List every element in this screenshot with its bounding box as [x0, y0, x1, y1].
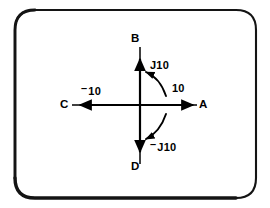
minus-sign-icon: –	[150, 139, 156, 150]
axis-endpoint-label-a: A	[199, 99, 208, 111]
axis-value-label-negative-10: –10	[81, 83, 101, 97]
axis-endpoint-label-d: D	[131, 161, 140, 173]
axis-value-label-positive-j10: J10	[150, 60, 169, 71]
axis-value-label-negative-10-text: 10	[88, 85, 101, 97]
axis-value-label-positive-10: 10	[172, 83, 185, 94]
phasor-diagram-figure: B D C A J10 –J10 –10 10	[0, 0, 270, 208]
minus-sign-icon: –	[81, 83, 87, 94]
axis-value-label-negative-j10: –J10	[150, 139, 176, 153]
axis-endpoint-label-b: B	[131, 33, 140, 45]
axis-endpoint-label-c: C	[60, 99, 69, 111]
axis-value-label-negative-j10-text: J10	[157, 141, 176, 153]
